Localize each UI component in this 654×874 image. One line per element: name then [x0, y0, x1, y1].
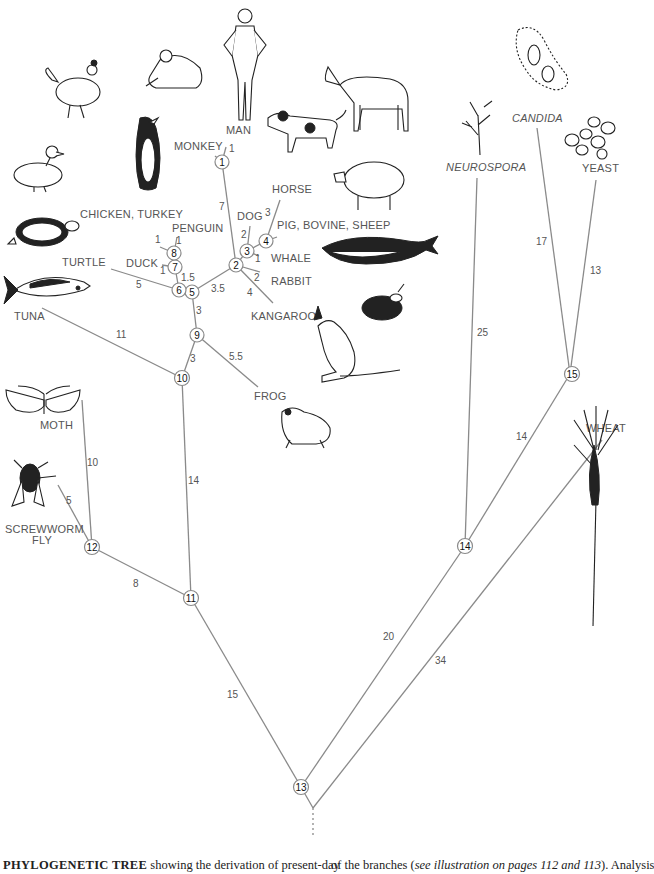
- svg-text:11: 11: [186, 593, 197, 604]
- blen-14-13: 20: [383, 631, 395, 642]
- blen-wheat: 34: [435, 655, 447, 666]
- moth-icon: [6, 386, 80, 414]
- label-neurospora: NEUROSPORA: [446, 161, 526, 173]
- blen-frog: 5.5: [229, 351, 243, 362]
- blen-dog: 2: [241, 229, 247, 240]
- label-kangaroo: KANGAROO: [251, 310, 316, 322]
- node-11: 11: [184, 591, 199, 606]
- label-man: MAN: [226, 124, 251, 136]
- blen-2-5: 3.5: [211, 283, 225, 294]
- node-14: 14: [458, 539, 473, 554]
- duck-icon: [14, 146, 64, 192]
- blen-penguin: 1: [176, 235, 182, 246]
- chicken-icon: [46, 60, 100, 118]
- neurospora-icon: [462, 101, 492, 155]
- node-6: 6: [172, 283, 186, 297]
- yeast-icon: [565, 117, 615, 159]
- branch-yeast: [570, 180, 596, 374]
- label-dog: DOG: [237, 210, 263, 222]
- caption-title: PHYLOGENETIC TREE: [3, 858, 147, 872]
- caption-left-text: showing the derivation of present-day: [147, 858, 340, 872]
- blen-12-11: 8: [133, 578, 139, 589]
- blen-moth: 10: [87, 457, 99, 468]
- svg-text:13: 13: [295, 782, 307, 793]
- branch-frog: [197, 335, 258, 387]
- monkey-icon: [146, 50, 202, 88]
- svg-text:4: 4: [263, 236, 269, 247]
- branch-14-13: [301, 546, 465, 787]
- blen-kangaroo: 4: [247, 287, 253, 298]
- blen-neurospora: 25: [477, 327, 489, 338]
- branch-neurospora: [465, 178, 477, 546]
- label-wheat: WHEAT: [586, 422, 626, 434]
- svg-text:14: 14: [459, 541, 471, 552]
- label-fly: FLY: [32, 534, 52, 546]
- svg-text:1: 1: [219, 157, 225, 168]
- blen-10-11: 14: [188, 475, 200, 486]
- tree-branches: [42, 128, 602, 838]
- svg-text:15: 15: [566, 369, 578, 380]
- blen-9-10: 3: [190, 353, 196, 364]
- branch-1-2: [222, 162, 236, 265]
- blen-monkey: 7: [219, 201, 225, 212]
- taxon-labels: MAN MONKEY HORSE DOG PIG, BOVINE, SHEEP …: [5, 112, 626, 546]
- node-5: 5: [185, 285, 199, 299]
- label-candida: CANDIDA: [512, 112, 563, 124]
- tuna-icon: [4, 276, 90, 304]
- label-pig: PIG, BOVINE, SHEEP: [277, 219, 391, 231]
- branch-screwworm: [58, 485, 92, 547]
- blen-5-9: 3: [196, 305, 202, 316]
- blen-rabbit: 2: [254, 272, 260, 283]
- svg-text:8: 8: [171, 248, 177, 259]
- label-turtle: TURTLE: [62, 256, 106, 268]
- label-chicken: CHICKEN, TURKEY: [80, 208, 183, 220]
- svg-text:3: 3: [244, 246, 250, 257]
- svg-text:10: 10: [176, 373, 188, 384]
- node-1: 1: [215, 155, 229, 169]
- frog-icon: [282, 408, 331, 448]
- branch-turtle: [111, 269, 179, 290]
- blen-15-14: 14: [516, 431, 528, 442]
- whale-icon: [322, 236, 438, 264]
- svg-text:7: 7: [172, 262, 178, 273]
- label-rabbit: RABBIT: [271, 275, 312, 287]
- blen-yeast: 13: [590, 265, 602, 276]
- blen-candida: 17: [536, 236, 548, 247]
- svg-text:9: 9: [194, 330, 200, 341]
- node-7: 7: [168, 260, 182, 274]
- label-duck: DUCK: [126, 257, 158, 269]
- blen-chicken: 1: [155, 234, 161, 245]
- svg-text:5: 5: [189, 287, 195, 298]
- node-9: 9: [190, 328, 204, 342]
- blen-tuna: 11: [116, 329, 127, 340]
- caption-right-post: ). Analysis: [601, 858, 654, 872]
- blen-duck: 1: [160, 265, 166, 276]
- branch-10-11: [182, 378, 191, 598]
- blen-screwworm: 5: [66, 495, 72, 506]
- caption-right-italic: see illustration on pages 112 and 113: [415, 858, 601, 872]
- node-2: 2: [229, 258, 243, 272]
- wheat-icon: [574, 406, 618, 626]
- blen-turtle: 5: [136, 279, 142, 290]
- node-15: 15: [565, 367, 580, 382]
- pig-icon: [334, 162, 404, 210]
- blen-man: 1: [229, 143, 235, 154]
- branch-candida: [537, 128, 570, 374]
- node-13: 13: [294, 780, 309, 795]
- node-10: 10: [175, 371, 190, 386]
- caption-right: of the branches (see illustration on pag…: [331, 858, 654, 873]
- label-whale: WHALE: [271, 252, 311, 264]
- branch-wheat: [313, 440, 602, 808]
- svg-text:2: 2: [233, 260, 239, 271]
- node-4: 4: [259, 234, 273, 248]
- branch-tuna: [42, 308, 182, 378]
- branch-11-13: [191, 598, 301, 787]
- blen-horse: 3: [265, 207, 271, 218]
- label-moth: MOTH: [40, 419, 73, 431]
- svg-text:12: 12: [86, 542, 98, 553]
- node-3: 3: [240, 244, 254, 258]
- blen-7-6: 1.5: [181, 272, 195, 283]
- label-horse: HORSE: [272, 183, 312, 195]
- label-tuna: TUNA: [14, 310, 45, 322]
- rabbit-icon: [362, 284, 404, 320]
